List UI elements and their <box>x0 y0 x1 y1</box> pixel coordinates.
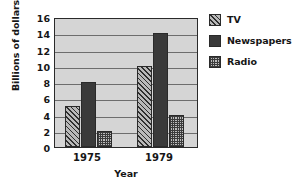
x-axis-title: Year <box>54 168 198 179</box>
legend-label: TV <box>227 14 241 25</box>
y-axis-tick-labels: 1614121086420 <box>26 12 50 152</box>
y-axis-tick: 8 <box>26 79 50 88</box>
bar-chart: Billions of dollars 1614121086420 197519… <box>0 0 303 189</box>
plot-area <box>54 18 198 148</box>
x-axis-tick-labels: 19751979 <box>54 152 198 166</box>
legend-swatch-icon <box>209 35 221 47</box>
y-axis-title: Billions of dollars <box>10 0 21 106</box>
y-axis-tick: 16 <box>26 14 50 23</box>
legend: TVNewspapersRadio <box>209 13 292 76</box>
y-axis-tick: 6 <box>26 95 50 104</box>
legend-swatch-icon <box>209 56 221 68</box>
bar-tv-1979 <box>137 66 152 147</box>
x-axis-tick: 1979 <box>145 152 173 163</box>
legend-item-newspapers: Newspapers <box>209 34 292 47</box>
y-axis-tick: 10 <box>26 62 50 71</box>
y-axis-tick: 2 <box>26 127 50 136</box>
legend-item-tv: TV <box>209 13 292 26</box>
bar-radio-1979 <box>169 115 184 148</box>
y-axis-tick: 14 <box>26 30 50 39</box>
legend-swatch-icon <box>209 14 221 26</box>
y-axis-tick: 4 <box>26 111 50 120</box>
bars-layer <box>55 19 197 147</box>
bar-newspapers-1979 <box>153 33 168 147</box>
legend-label: Newspapers <box>227 35 292 46</box>
legend-label: Radio <box>227 56 257 67</box>
bar-group <box>55 19 199 147</box>
y-axis-tick: 12 <box>26 46 50 55</box>
legend-item-radio: Radio <box>209 55 292 68</box>
x-axis-tick: 1975 <box>73 152 101 163</box>
y-axis-tick: 0 <box>26 144 50 153</box>
